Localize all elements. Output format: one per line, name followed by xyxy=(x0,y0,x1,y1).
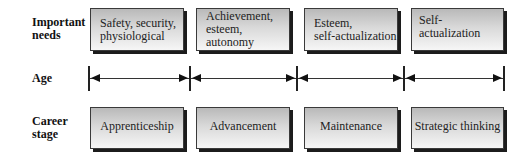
arrowhead-left-icon xyxy=(299,74,308,82)
age-tick-1 xyxy=(88,66,90,91)
needs-text-line: Safety, security, xyxy=(100,17,176,30)
career-stage-label: Advancement xyxy=(210,120,277,133)
career-stage-box-4: Strategic thinking xyxy=(411,107,504,149)
age-tick-2 xyxy=(189,66,191,91)
needs-text-line: Esteem, xyxy=(314,17,397,30)
career-stage-box-2: Advancement xyxy=(196,107,290,149)
row-label-age: Age xyxy=(32,72,52,85)
row-label-line: Age xyxy=(32,71,52,85)
career-stage-label: Apprenticeship xyxy=(100,120,173,133)
career-stage-label: Maintenance xyxy=(320,120,382,133)
row-label-line: stage xyxy=(32,128,68,141)
needs-text-line: self-actualization xyxy=(314,30,397,43)
needs-box-3: Esteem, self-actualization xyxy=(304,8,398,51)
needs-box-1: Safety, security, physiological xyxy=(90,8,184,51)
needs-text-line: physiological xyxy=(100,30,176,43)
arrowhead-right-icon xyxy=(286,74,295,82)
arrowhead-right-icon xyxy=(179,74,188,82)
row-label-important-needs: Important needs xyxy=(32,16,85,42)
age-tick-4 xyxy=(403,66,405,91)
needs-box-4: Self-actualization xyxy=(411,8,504,51)
arrowhead-left-icon xyxy=(192,74,201,82)
arrowhead-left-icon xyxy=(406,74,415,82)
career-stage-box-1: Apprenticeship xyxy=(90,107,184,149)
row-label-career-stage: Career stage xyxy=(32,115,68,141)
needs-text-line: esteem, autonomy xyxy=(206,23,289,49)
arrowhead-right-icon xyxy=(493,74,502,82)
career-stage-label: Strategic thinking xyxy=(415,120,501,133)
needs-box-2: Achievement, esteem, autonomy xyxy=(196,8,290,51)
needs-text-line: Self-actualization xyxy=(419,14,503,40)
age-tick-5 xyxy=(503,66,505,91)
arrowhead-left-icon xyxy=(91,74,100,82)
career-stage-box-3: Maintenance xyxy=(304,107,398,149)
age-tick-3 xyxy=(296,66,298,91)
arrowhead-right-icon xyxy=(393,74,402,82)
row-label-line: needs xyxy=(32,29,85,42)
